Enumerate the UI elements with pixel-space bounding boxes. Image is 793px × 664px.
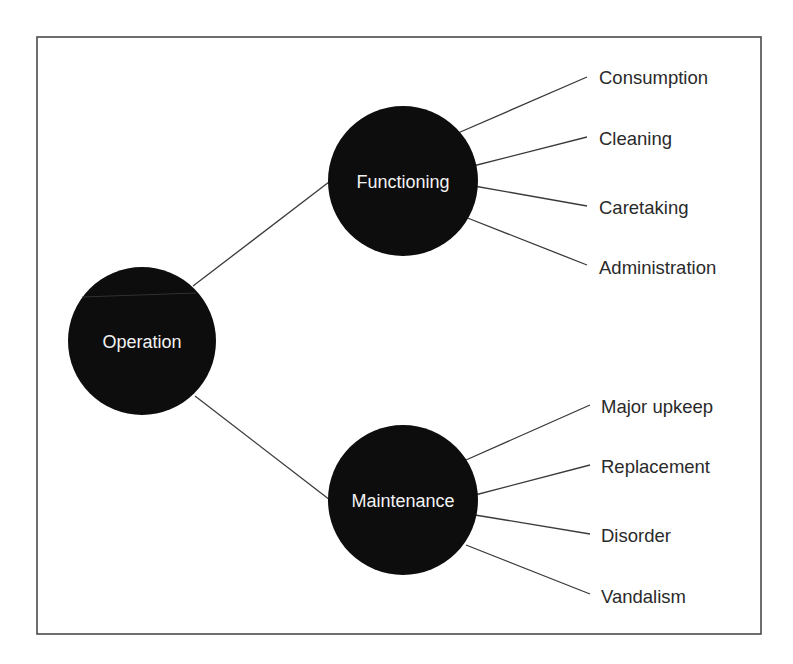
edge-operation-to-maintenance xyxy=(195,396,330,500)
leaf-label-major-upkeep: Major upkeep xyxy=(601,396,713,417)
edge-maintenance-to-major-upkeep xyxy=(466,405,590,460)
node-label-maintenance: Maintenance xyxy=(351,491,454,511)
node-label-operation: Operation xyxy=(102,332,181,352)
nodes-layer: OperationFunctioningMaintenance xyxy=(68,106,478,575)
leaf-label-consumption: Consumption xyxy=(599,67,708,88)
node-operation: Operation xyxy=(68,267,216,415)
leaf-label-vandalism: Vandalism xyxy=(601,586,686,607)
edge-functioning-to-cleaning xyxy=(473,137,587,166)
edge-functioning-to-administration xyxy=(465,217,587,265)
edge-functioning-to-caretaking xyxy=(474,186,587,206)
node-functioning: Functioning xyxy=(328,106,478,256)
leaf-label-replacement: Replacement xyxy=(601,456,710,477)
edge-operation-to-functioning xyxy=(193,182,329,286)
leaf-labels-layer: ConsumptionCleaningCaretakingAdministrat… xyxy=(599,67,716,607)
edge-functioning-to-consumption xyxy=(458,77,587,133)
leaf-label-disorder: Disorder xyxy=(601,525,671,546)
leaf-label-caretaking: Caretaking xyxy=(599,197,688,218)
node-label-functioning: Functioning xyxy=(356,172,449,192)
leaf-label-cleaning: Cleaning xyxy=(599,128,672,149)
leaf-label-administration: Administration xyxy=(599,257,716,278)
operation-tree-diagram: OperationFunctioningMaintenance Consumpt… xyxy=(0,0,793,664)
edge-maintenance-to-vandalism xyxy=(466,545,590,594)
edge-maintenance-to-disorder xyxy=(475,515,590,534)
edge-maintenance-to-replacement xyxy=(475,465,590,495)
node-maintenance: Maintenance xyxy=(328,425,478,575)
